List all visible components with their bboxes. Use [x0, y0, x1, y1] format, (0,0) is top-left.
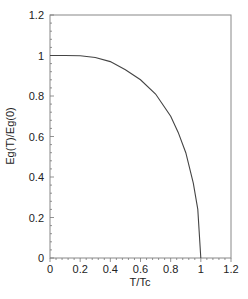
x-tick-label: 0.2: [73, 263, 88, 275]
axis-ticks: [50, 15, 231, 262]
x-tick-labels: 00.20.40.60.811.2: [47, 263, 239, 275]
x-tick-label: 0.4: [103, 263, 118, 275]
y-tick-label: 0: [38, 252, 44, 264]
y-tick-label: 1: [38, 50, 44, 62]
x-axis-label: T/Tc: [130, 276, 151, 288]
x-tick-label: 1.2: [223, 263, 238, 275]
plot-frame: [50, 15, 231, 258]
y-tick-label: 1.2: [29, 9, 44, 21]
x-tick-label: 1: [198, 263, 204, 275]
y-tick-label: 0.2: [29, 212, 44, 224]
y-axis-label: Eg(T)/Eg(0): [4, 107, 16, 164]
y-tick-label: 0.8: [29, 90, 44, 102]
x-tick-label: 0: [47, 263, 53, 275]
gap-curve: [50, 56, 201, 259]
x-tick-label: 0.8: [163, 263, 178, 275]
y-tick-label: 0.4: [29, 171, 44, 183]
y-tick-label: 0.6: [29, 131, 44, 143]
x-tick-label: 0.6: [133, 263, 148, 275]
y-tick-labels: 00.20.40.60.811.2: [29, 9, 44, 264]
chart: 00.20.40.60.811.2 00.20.40.60.811.2 T/Tc…: [0, 0, 248, 299]
